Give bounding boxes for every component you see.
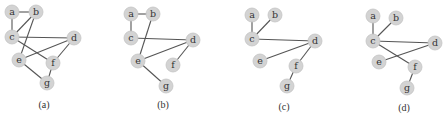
node-label: d xyxy=(190,34,196,45)
node-label: g xyxy=(44,77,50,88)
edge-b-e xyxy=(138,14,153,61)
node-label: g xyxy=(404,82,410,93)
panel-caption: (a) xyxy=(38,99,49,111)
panel-caption: (c) xyxy=(278,101,289,113)
node-label: e xyxy=(135,55,141,66)
node-label: e xyxy=(376,56,382,67)
graph-panel-c: abcdefg(c) xyxy=(245,8,322,113)
node-label: b xyxy=(33,6,39,17)
graph-panel-b: abcdefg(b) xyxy=(124,7,200,111)
node-label: a xyxy=(370,10,376,21)
graph-panel-a: abcdefg(a) xyxy=(5,5,81,111)
node-label: e xyxy=(257,55,263,66)
node-label: c xyxy=(128,32,133,43)
edge-c-d xyxy=(131,38,193,40)
edge-b-e xyxy=(19,12,36,60)
panel-caption: (d) xyxy=(398,102,410,114)
graph-panel-d: abcdefg(d) xyxy=(366,9,442,114)
node-label: g xyxy=(284,80,290,91)
edge-c-d xyxy=(12,37,74,38)
edge-e-d xyxy=(19,38,74,60)
edge-c-d xyxy=(252,39,315,41)
node-label: b xyxy=(393,12,399,23)
node-label: g xyxy=(163,80,169,91)
node-label: d xyxy=(71,32,77,43)
node-label: d xyxy=(312,35,318,46)
graph-figure: abcdefg(a) abcdefg(b) abcdefg(c) abcdefg… xyxy=(0,0,446,117)
node-label: e xyxy=(16,54,22,65)
node-label: d xyxy=(432,37,438,48)
node-label: c xyxy=(370,35,375,46)
edge-c-d xyxy=(373,41,435,43)
node-label: b xyxy=(150,8,156,19)
node-label: a xyxy=(128,8,134,19)
node-label: a xyxy=(9,6,15,17)
node-label: c xyxy=(249,33,254,44)
node-label: a xyxy=(249,9,255,20)
node-label: c xyxy=(9,31,14,42)
panel-caption: (b) xyxy=(157,99,169,111)
node-label: b xyxy=(272,9,278,20)
edge-e-d xyxy=(379,43,435,62)
